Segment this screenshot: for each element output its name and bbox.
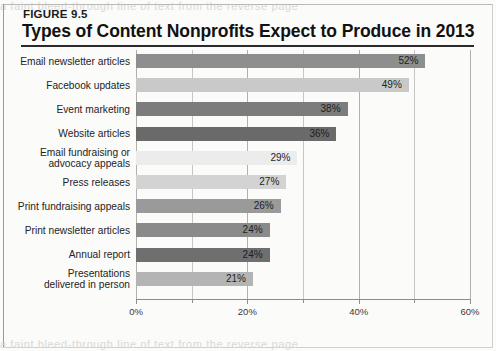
category-label-line: Presentations	[4, 268, 130, 280]
figure-number-label: FIGURE 9.5	[23, 8, 88, 20]
bar-row: Print newsletter articles24%	[0, 223, 496, 237]
x-tick-50	[414, 299, 415, 303]
bar-value-label: 24%	[243, 223, 263, 237]
figure-title: Types of Content Nonprofits Expect to Pr…	[22, 21, 474, 42]
bar-row: Print fundraising appeals26%	[0, 199, 496, 213]
category-label-line: Email newsletter articles	[4, 56, 130, 68]
bar-row: Website articles36%	[0, 127, 496, 141]
bar-row: Press releases27%	[0, 175, 496, 189]
page-edge-bottom	[3, 347, 493, 348]
category-label-line: Email fundraising or	[4, 147, 130, 159]
bar-value-label: 29%	[270, 151, 290, 165]
bar-value-label: 38%	[321, 102, 341, 116]
bar-value-label: 21%	[226, 272, 246, 286]
bar	[136, 127, 336, 141]
bar-value-label: 24%	[243, 248, 263, 262]
bar	[136, 54, 425, 68]
bar-row: Email fundraising oradvocacy appeals29%	[0, 151, 496, 165]
category-label: Email newsletter articles	[4, 56, 130, 68]
category-label: Press releases	[4, 177, 130, 189]
category-label: Presentationsdelivered in person	[4, 268, 130, 291]
page-bleed-text-bottom: a faint bleed-through line of text from …	[0, 338, 496, 350]
figure-container: a faint bleed-through line of text from …	[0, 0, 496, 351]
bar-row: Presentationsdelivered in person21%	[0, 272, 496, 286]
category-label: Facebook updates	[4, 80, 130, 92]
x-tick-40	[359, 299, 360, 304]
x-tick-label-60pct: 60%	[460, 306, 479, 317]
bar-value-label: 36%	[309, 127, 329, 141]
bar-row: Annual report24%	[0, 248, 496, 262]
category-label: Website articles	[4, 128, 130, 140]
bar	[136, 102, 348, 116]
category-label: Annual report	[4, 249, 130, 261]
bar	[136, 78, 409, 92]
category-label-line: advocacy appeals	[4, 158, 130, 170]
bar-value-label: 49%	[382, 78, 402, 92]
category-label-line: Event marketing	[4, 104, 130, 116]
x-tick-label-0pct: 0%	[129, 306, 143, 317]
x-tick-label-20pct: 20%	[238, 306, 257, 317]
bar-value-label: 27%	[259, 175, 279, 189]
bar-value-label: 26%	[254, 199, 274, 213]
x-tick-30	[303, 299, 304, 303]
x-tick-10	[192, 299, 193, 303]
category-label-line: Facebook updates	[4, 80, 130, 92]
category-label-line: Website articles	[4, 128, 130, 140]
category-label-line: delivered in person	[4, 279, 130, 291]
bar-row: Email newsletter articles52%	[0, 54, 496, 68]
category-label: Email fundraising oradvocacy appeals	[4, 147, 130, 170]
category-label: Print fundraising appeals	[4, 201, 130, 213]
bar-row: Facebook updates49%	[0, 78, 496, 92]
bar-chart-plot-area: 0%20%40%60%Email newsletter articles52%F…	[0, 50, 496, 320]
category-label-line: Press releases	[4, 177, 130, 189]
bar-row: Event marketing38%	[0, 102, 496, 116]
x-tick-60	[470, 299, 471, 304]
x-tick-20	[247, 299, 248, 304]
bar-value-label: 52%	[398, 54, 418, 68]
x-tick-0	[136, 299, 137, 304]
title-divider-rule	[21, 45, 474, 47]
category-label: Event marketing	[4, 104, 130, 116]
category-label-line: Annual report	[4, 249, 130, 261]
category-label: Print newsletter articles	[4, 225, 130, 237]
page-edge-top	[3, 4, 493, 5]
x-tick-label-40pct: 40%	[349, 306, 368, 317]
category-label-line: Print fundraising appeals	[4, 201, 130, 213]
category-label-line: Print newsletter articles	[4, 225, 130, 237]
